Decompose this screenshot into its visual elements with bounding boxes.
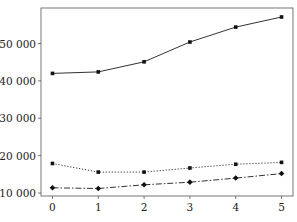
data-point-marker: [280, 161, 284, 165]
data-point-marker: [142, 170, 146, 174]
x-tick-label: 4: [232, 201, 239, 213]
data-point-marker: [280, 15, 284, 19]
y-axis: 10 00020 00030 00040 00050 000: [0, 38, 41, 200]
data-point-marker: [50, 185, 56, 191]
x-tick-label: 2: [141, 201, 148, 213]
line-chart: 10 00020 00030 00040 00050 000 012345: [0, 0, 297, 222]
data-point-marker: [51, 162, 55, 166]
series-line-dash-dot: [53, 174, 282, 189]
y-tick-label: 20 000: [0, 150, 36, 162]
series-group: [50, 15, 285, 191]
x-tick-label: 5: [278, 201, 285, 213]
data-point-marker: [188, 166, 192, 170]
data-point-marker: [51, 72, 55, 76]
x-tick-label: 0: [49, 201, 56, 213]
x-tick-label: 1: [95, 201, 102, 213]
data-point-marker: [279, 171, 285, 177]
data-point-marker: [234, 25, 238, 29]
data-point-marker: [188, 40, 192, 44]
data-point-marker: [96, 170, 100, 174]
y-tick-label: 40 000: [0, 75, 36, 87]
data-point-marker: [234, 162, 238, 166]
x-tick-label: 3: [187, 201, 194, 213]
y-tick-label: 30 000: [0, 112, 36, 124]
series-line-dotted: [53, 162, 282, 172]
y-tick-label: 50 000: [0, 38, 36, 50]
data-point-marker: [142, 60, 146, 64]
data-point-marker: [187, 179, 193, 185]
data-point-marker: [96, 70, 100, 74]
data-point-marker: [141, 182, 147, 188]
plot-frame: [41, 8, 293, 196]
y-tick-label: 10 000: [0, 187, 36, 199]
data-point-marker: [95, 186, 101, 192]
x-axis: 012345: [49, 196, 285, 213]
series-line-solid: [53, 17, 282, 73]
data-point-marker: [233, 175, 239, 181]
